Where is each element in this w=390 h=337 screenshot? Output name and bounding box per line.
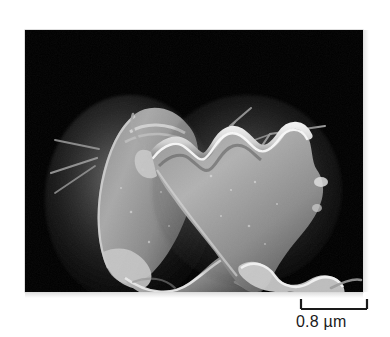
micrograph-grain <box>25 30 363 292</box>
micrograph-plate <box>25 30 363 292</box>
scale-bar-label: 0.8 µm <box>296 312 376 332</box>
scale-bar <box>298 298 370 312</box>
scale-bar-graphic <box>298 298 370 312</box>
plate-right-shadow <box>363 30 369 292</box>
micrograph-canvas <box>25 30 363 292</box>
micrograph-figure: 0.8 µm <box>0 0 390 337</box>
scale-bar-bracket <box>301 299 367 309</box>
